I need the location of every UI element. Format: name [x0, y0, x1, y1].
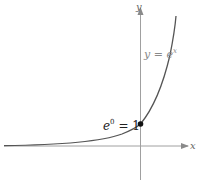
- curve-label: y = ex: [143, 47, 177, 61]
- exponential-graph: y x y = ex e0 = 1: [0, 0, 201, 188]
- x-axis-label: x: [190, 140, 196, 151]
- point-label: e0 = 1: [103, 118, 140, 133]
- exponential-curve: [4, 16, 176, 146]
- y-axis-label: y: [135, 1, 142, 12]
